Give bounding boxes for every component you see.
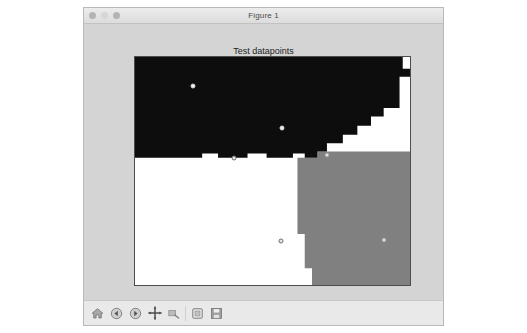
home-icon: [91, 307, 104, 320]
back-button[interactable]: [107, 304, 126, 323]
data-point: [324, 152, 329, 157]
y-tick: [134, 90, 135, 91]
window-title: Figure 1: [84, 8, 443, 23]
plot-axes[interactable]: 123456234567: [134, 56, 411, 286]
y-tick: [134, 166, 135, 167]
back-arrow-icon: [110, 307, 123, 320]
y-tick: [134, 280, 135, 281]
matplotlib-figure-window: Figure 1 Test datapoints 123456234567: [83, 7, 444, 326]
forward-button[interactable]: [126, 304, 145, 323]
data-point: [191, 83, 196, 88]
toolbar-separator: [185, 306, 186, 321]
zoom-button[interactable]: [113, 12, 120, 19]
data-point: [278, 239, 283, 244]
save-disk-icon: [210, 307, 223, 320]
minimize-button[interactable]: [101, 12, 108, 19]
x-tick: [375, 285, 376, 286]
save-figure-button[interactable]: [207, 304, 226, 323]
y-tick: [134, 242, 135, 243]
x-tick: [329, 285, 330, 286]
configure-subplots-button[interactable]: [188, 304, 207, 323]
pan-button[interactable]: [145, 304, 164, 323]
desktop-background: Figure 1 Test datapoints 123456234567: [0, 0, 527, 333]
x-tick: [148, 285, 149, 286]
plot-title: Test datapoints: [84, 46, 443, 56]
navigation-toolbar: [84, 300, 443, 325]
pan-move-icon: [148, 306, 162, 320]
subplots-configure-icon: [191, 307, 204, 320]
forward-arrow-icon: [129, 307, 142, 320]
y-tick: [134, 204, 135, 205]
window-title-bar[interactable]: Figure 1: [84, 8, 443, 24]
close-button[interactable]: [89, 12, 96, 19]
data-point: [381, 238, 386, 243]
window-controls: [89, 8, 120, 23]
x-tick: [284, 285, 285, 286]
zoom-rect-button[interactable]: [164, 304, 183, 323]
home-button[interactable]: [88, 304, 107, 323]
x-tick: [238, 285, 239, 286]
x-tick: [193, 285, 194, 286]
y-tick: [134, 128, 135, 129]
figure-canvas: Test datapoints 123456234567: [84, 24, 443, 300]
data-point: [279, 125, 284, 130]
data-point: [231, 156, 236, 161]
zoom-rect-icon: [167, 307, 180, 320]
